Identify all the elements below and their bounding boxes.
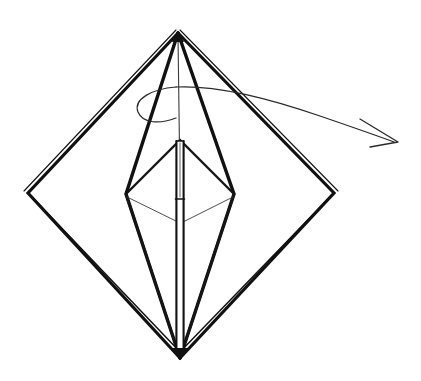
bipyramid-diagram: [0, 0, 421, 381]
figure-canvas: [0, 0, 421, 381]
